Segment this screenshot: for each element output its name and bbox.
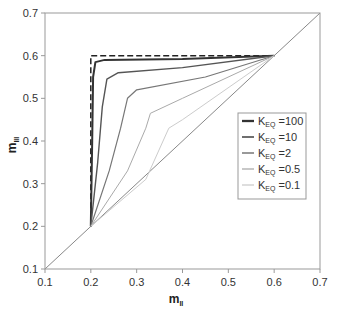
x-tick-label: 0.4 [175, 276, 190, 288]
legend-entry: KEQ =0.5 [258, 163, 300, 177]
x-tick-label: 0.6 [267, 276, 282, 288]
y-tick-label: 0.4 [23, 135, 38, 147]
legend-entry: KEQ =0.1 [258, 179, 300, 193]
y-tick-label: 0.7 [23, 7, 38, 19]
x-tick-label: 0.7 [312, 276, 327, 288]
x-tick-label: 0.3 [129, 276, 144, 288]
x-tick-label: 0.2 [83, 276, 98, 288]
y-tick-label: 0.6 [23, 50, 38, 62]
legend: KEQ =100KEQ =10KEQ =2KEQ =0.5KEQ =0.1 [238, 113, 306, 199]
y-tick-label: 0.5 [23, 92, 38, 104]
x-tick-label: 0.1 [37, 276, 52, 288]
legend-entry: KEQ =10 [258, 131, 297, 145]
legend-entry: KEQ =2 [258, 147, 291, 161]
legend-entry: KEQ =100 [258, 115, 303, 129]
y-tick-label: 0.1 [23, 263, 38, 275]
x-axis-label: mII [169, 292, 184, 307]
y-axis-label: mIII [5, 137, 20, 154]
chart-canvas: 0.10.20.30.40.50.60.70.10.20.30.40.50.60… [0, 0, 339, 315]
y-tick-label: 0.2 [23, 220, 38, 232]
x-tick-label: 0.5 [221, 276, 236, 288]
y-tick-label: 0.3 [23, 178, 38, 190]
